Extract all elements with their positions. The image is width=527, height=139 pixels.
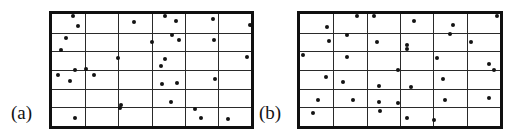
data-point bbox=[76, 24, 80, 28]
data-point bbox=[341, 80, 345, 84]
data-point bbox=[441, 77, 445, 81]
figure-container: (a) (b) bbox=[0, 0, 527, 139]
data-point bbox=[412, 19, 416, 23]
data-point bbox=[118, 106, 122, 110]
data-point bbox=[245, 55, 249, 59]
panel-b-points bbox=[300, 14, 500, 126]
data-point bbox=[170, 33, 174, 37]
panel-b-frame bbox=[297, 11, 503, 129]
data-point bbox=[212, 38, 216, 42]
data-point bbox=[248, 23, 251, 27]
data-point bbox=[116, 56, 120, 60]
data-point bbox=[396, 101, 400, 105]
panel-a-points bbox=[52, 14, 251, 126]
data-point bbox=[71, 14, 75, 18]
data-point bbox=[211, 17, 215, 21]
data-point bbox=[409, 85, 413, 89]
data-point bbox=[469, 40, 473, 44]
data-point bbox=[396, 68, 400, 72]
data-point bbox=[375, 40, 379, 44]
data-point bbox=[327, 39, 331, 43]
data-point bbox=[443, 98, 447, 102]
data-point bbox=[311, 111, 315, 115]
data-point bbox=[159, 64, 163, 68]
data-point bbox=[301, 53, 305, 57]
data-point bbox=[345, 33, 349, 37]
panel-a-frame bbox=[49, 11, 254, 129]
data-point bbox=[377, 84, 381, 88]
data-point bbox=[56, 73, 60, 77]
data-point bbox=[435, 56, 439, 60]
data-point bbox=[132, 20, 136, 24]
data-point bbox=[325, 25, 329, 29]
panel-b-label: (b) bbox=[259, 103, 281, 122]
data-point bbox=[163, 14, 167, 18]
data-point bbox=[355, 14, 359, 18]
data-point bbox=[487, 96, 491, 100]
data-point bbox=[64, 36, 68, 40]
data-point bbox=[351, 98, 355, 102]
data-point bbox=[68, 79, 72, 83]
data-point bbox=[448, 32, 452, 36]
data-point bbox=[177, 38, 181, 42]
data-point bbox=[345, 55, 349, 59]
data-point bbox=[372, 14, 376, 18]
data-point bbox=[193, 107, 197, 111]
data-point bbox=[59, 48, 63, 52]
data-point bbox=[84, 67, 88, 71]
data-point bbox=[92, 73, 96, 77]
data-point bbox=[73, 116, 77, 120]
data-point bbox=[495, 14, 499, 18]
data-point bbox=[451, 23, 455, 27]
data-point bbox=[150, 40, 154, 44]
data-point bbox=[213, 77, 217, 81]
panel-a-label: (a) bbox=[11, 103, 32, 122]
data-point bbox=[378, 109, 382, 113]
data-point bbox=[73, 68, 77, 72]
data-point bbox=[174, 19, 178, 23]
data-point bbox=[405, 47, 409, 51]
data-point bbox=[169, 100, 173, 104]
data-point bbox=[175, 81, 179, 85]
data-point bbox=[492, 68, 496, 72]
data-point bbox=[487, 62, 491, 66]
data-point bbox=[377, 100, 381, 104]
data-point bbox=[316, 98, 320, 102]
data-point bbox=[226, 117, 230, 121]
data-point bbox=[199, 116, 203, 120]
data-point bbox=[405, 116, 409, 120]
data-point bbox=[160, 82, 164, 86]
data-point bbox=[432, 118, 436, 122]
data-point bbox=[324, 75, 328, 79]
data-point bbox=[163, 57, 167, 61]
